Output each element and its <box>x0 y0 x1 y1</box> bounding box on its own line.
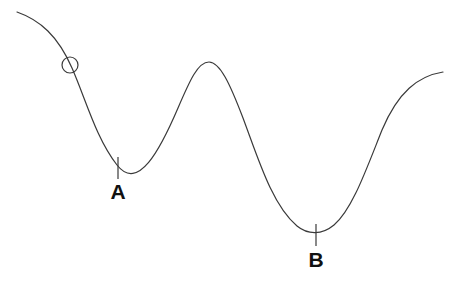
valley-label-a: A <box>110 180 125 203</box>
physics-diagram: A B <box>0 0 449 283</box>
diagram-canvas: A B <box>0 0 449 283</box>
wavy-surface-curve <box>17 12 443 233</box>
valley-label-b: B <box>308 248 323 271</box>
